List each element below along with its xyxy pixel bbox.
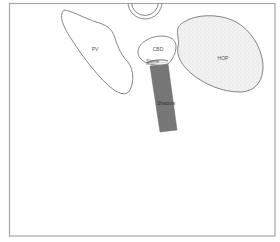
diagram-canvas: PV CBD Stone Shadow HOP	[0, 0, 280, 242]
pv-label: PV	[92, 46, 99, 52]
cbd-label: CBD	[153, 46, 164, 52]
ultrasound-diagram: PV CBD Stone Shadow HOP	[0, 0, 280, 242]
stone-label: Stone	[146, 58, 159, 64]
hop-label: HOP	[218, 55, 230, 61]
shadow-label: Shadow	[157, 100, 175, 106]
